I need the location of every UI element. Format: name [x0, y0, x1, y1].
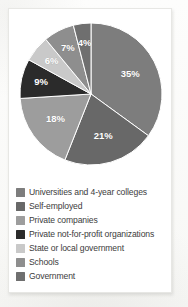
legend-item: Schools [16, 255, 173, 269]
pie-slice-value-label: 35% [121, 68, 141, 79]
legend-item-label: Private not-for-profit organizations [29, 229, 154, 239]
legend-item-label: State or local government [29, 243, 124, 253]
pie-slice-value-label: 9% [34, 76, 48, 87]
legend-color-swatch [16, 188, 25, 197]
pie-slice-value-label: 18% [46, 113, 66, 124]
legend-item-label: Private companies [29, 215, 98, 225]
legend-item: State or local government [16, 241, 173, 255]
pie-chart-area: 35%21%18%9%6%7%4% [9, 9, 173, 181]
pie-slice-value-label: 7% [61, 42, 75, 53]
legend-color-swatch [16, 244, 25, 253]
legend-color-swatch [16, 230, 25, 239]
pie-slice-value-label: 4% [78, 37, 92, 48]
legend-item: Private companies [16, 213, 173, 227]
legend-item: Self-employed [16, 199, 173, 213]
pie-slice-value-label: 21% [94, 130, 114, 141]
legend-item-label: Government [29, 271, 75, 281]
legend-item: Private not-for-profit organizations [16, 227, 173, 241]
legend-item-label: Schools [29, 257, 59, 267]
legend-color-swatch [16, 202, 25, 211]
chart-card: 35%21%18%9%6%7%4% Universities and 4-yea… [8, 8, 172, 293]
pie-slice-value-label: 6% [45, 55, 59, 66]
legend-color-swatch [16, 258, 25, 267]
page-root: 35%21%18%9%6%7%4% Universities and 4-yea… [0, 0, 188, 307]
legend-item-label: Self-employed [29, 201, 82, 211]
legend-item: Government [16, 269, 173, 283]
pie-chart: 35%21%18%9%6%7%4% [19, 13, 165, 175]
legend-item-label: Universities and 4-year colleges [29, 187, 147, 197]
chart-legend: Universities and 4-year collegesSelf-emp… [16, 185, 173, 283]
legend-color-swatch [16, 272, 25, 281]
legend-item: Universities and 4-year colleges [16, 185, 173, 199]
legend-color-swatch [16, 216, 25, 225]
